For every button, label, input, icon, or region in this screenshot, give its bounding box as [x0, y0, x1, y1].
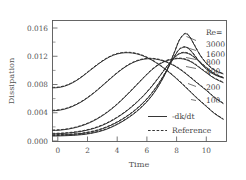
y-tick-label: 0.008	[27, 80, 48, 89]
y-tick-label: 0.016	[27, 24, 48, 33]
series-annotation-label: 100	[206, 96, 221, 105]
series-curve-reference	[53, 33, 224, 135]
x-tick-label: 8	[174, 146, 179, 155]
x-axis-ticks	[58, 137, 207, 142]
y-tick-label: 0.012	[27, 52, 48, 61]
dissipation-chart-figure: 0.000 0.004 0.008 0.012 0.016 0 2 4 6 8 …	[0, 0, 246, 180]
legend-label-dkdt: -dk/dt	[172, 112, 195, 121]
x-tick-labels: 0 2 4 6 8 10	[55, 146, 211, 155]
series-annotations: Re=30001600800400200100	[206, 28, 225, 104]
series-curve-solid	[53, 53, 224, 134]
y-tick-labels: 0.000 0.004 0.008 0.012 0.016	[27, 24, 48, 146]
data-curves-layer	[53, 33, 224, 136]
x-tick-label: 10	[202, 146, 212, 155]
x-tick-label: 6	[145, 146, 150, 155]
chart-canvas: 0.000 0.004 0.008 0.012 0.016 0 2 4 6 8 …	[0, 0, 246, 180]
x-axis-title: Time	[129, 159, 150, 169]
series-curve-reference	[53, 52, 224, 119]
series-curve-reference	[53, 52, 224, 133]
legend-label-reference: Reference	[172, 126, 212, 135]
x-tick-label: 4	[115, 146, 120, 155]
y-tick-label: 0.004	[27, 108, 48, 117]
y-tick-label: 0.000	[27, 137, 48, 146]
series-annotation-label: 200	[206, 83, 221, 92]
y-axis-title: Dissipation	[6, 57, 16, 104]
series-curve-reference	[53, 58, 224, 130]
series-annotation-label: 3000	[206, 40, 225, 49]
x-tick-label: 0	[55, 146, 60, 155]
series-annotation-label: 400	[206, 67, 221, 76]
y-axis-ticks	[53, 28, 58, 141]
legend: -dk/dt Reference	[148, 112, 212, 135]
series-curve-solid	[53, 59, 224, 131]
series-annotation-label: Re=	[206, 28, 223, 37]
x-tick-label: 2	[85, 146, 90, 155]
series-curve-solid	[53, 34, 224, 136]
